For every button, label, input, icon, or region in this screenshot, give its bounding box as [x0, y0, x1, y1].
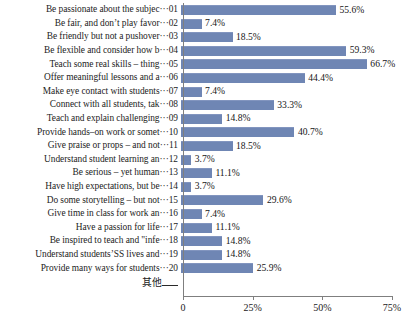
bar-value-label: 3.7% — [195, 153, 215, 165]
bar — [181, 114, 222, 124]
chart-row: Provide many ways for students···2025.9% — [0, 261, 418, 275]
x-axis-tick-label: 0 — [181, 302, 186, 314]
other-row-text: 其他 — [142, 277, 162, 288]
bar-track: 25.9% — [181, 261, 418, 275]
chart-row: Understand student learning an···123.7% — [0, 153, 418, 167]
bar-track: 55.6% — [181, 3, 418, 17]
category-label: Give time in class for work an···16 — [0, 208, 181, 219]
bar-value-label: 18.5% — [236, 31, 261, 43]
chart-row: Be flexible and consider how b···0459.3% — [0, 44, 418, 58]
bar-value-label: 25.9% — [257, 262, 282, 274]
chart-row: Give time in class for work an···167.4% — [0, 207, 418, 221]
bar-value-label: 14.8% — [226, 235, 251, 247]
category-label: Understand students’SS lives and···19 — [0, 249, 181, 260]
bar-value-label: 3.7% — [195, 180, 215, 192]
bar — [181, 46, 346, 56]
category-label: Connect with all students, tak···08 — [0, 99, 181, 110]
bar — [181, 32, 233, 42]
bar — [181, 59, 367, 69]
category-label: Be passionate about the subjec···01 — [0, 4, 181, 15]
category-label: Teach and explain challenging···09 — [0, 113, 181, 124]
chart-rows: Be passionate about the subjec···0155.6%… — [0, 3, 418, 289]
category-label: Be serious – yet human···13 — [0, 167, 181, 178]
bar — [181, 263, 253, 273]
x-axis-tick — [183, 296, 184, 300]
chart-row: Be inspired to teach and "infe···1814.8% — [0, 234, 418, 248]
bar — [181, 236, 222, 246]
bar-value-label: 55.6% — [339, 4, 364, 16]
category-label: Be friendly but not a pushover···03 — [0, 31, 181, 42]
bar-track: 18.5% — [181, 30, 418, 44]
bar-value-label: 59.3% — [350, 44, 375, 56]
bar — [181, 19, 202, 29]
x-axis-tick — [322, 296, 323, 300]
category-label: Provide hands–on work or somet···10 — [0, 127, 181, 138]
chart-row: Be friendly but not a pushover···0318.5% — [0, 30, 418, 44]
bar — [181, 209, 202, 219]
chart-row: Connect with all students, tak···0833.3% — [0, 98, 418, 112]
category-label: Be inspired to teach and "infe···18 — [0, 235, 181, 246]
x-axis-tick — [392, 296, 393, 300]
bar — [181, 141, 233, 151]
category-label: Be fair, and don’t play favor···02 — [0, 18, 181, 29]
horizontal-bar-chart: Be passionate about the subjec···0155.6%… — [0, 0, 418, 327]
category-label: Make eye contact with students···07 — [0, 86, 181, 97]
bar-value-label: 44.4% — [308, 72, 333, 84]
other-row-blank-underline — [162, 277, 178, 286]
bar — [181, 73, 305, 83]
bar-track: 59.3% — [181, 44, 418, 58]
bar — [181, 87, 202, 97]
bar — [181, 5, 336, 15]
chart-row: Teach some real skills – thing···0566.7% — [0, 57, 418, 71]
chart-row: Have a passion for life···1711.1% — [0, 221, 418, 235]
chart-row: Be passionate about the subjec···0155.6% — [0, 3, 418, 17]
bar-track: 7.4% — [181, 17, 418, 31]
bar-value-label: 11.1% — [215, 221, 239, 233]
chart-row: Provide hands–on work or somet···1040.7% — [0, 125, 418, 139]
bar-value-label: 18.5% — [236, 140, 261, 152]
chart-row: Be fair, and don’t play favor···027.4% — [0, 17, 418, 31]
bar-track: 29.6% — [181, 193, 418, 207]
chart-row: Have high expectations, but be···143.7% — [0, 180, 418, 194]
chart-row: Give praise or props – and not···1118.5% — [0, 139, 418, 153]
bar-value-label: 66.7% — [370, 58, 395, 70]
category-label: Give praise or props – and not···11 — [0, 140, 181, 151]
category-label: Do some storytelling – but not···15 — [0, 195, 181, 206]
bar-value-label: 7.4% — [205, 85, 225, 97]
bar-track: 3.7% — [181, 180, 418, 194]
bar — [181, 182, 191, 192]
x-axis-tick-label: 25% — [243, 302, 261, 314]
category-label: Teach some real skills – thing···05 — [0, 59, 181, 70]
category-label: Have high expectations, but be···14 — [0, 181, 181, 192]
bar-track: 33.3% — [181, 98, 418, 112]
chart-row: Teach and explain challenging···0914.8% — [0, 112, 418, 126]
bar-track: 11.1% — [181, 221, 418, 235]
bar-value-label: 14.8% — [226, 112, 251, 124]
bar-value-label: 7.4% — [205, 17, 225, 29]
bar — [181, 127, 294, 137]
bar-track: 14.8% — [181, 112, 418, 126]
category-label: Have a passion for life···17 — [0, 222, 181, 233]
bar-track: 11.1% — [181, 166, 418, 180]
bar-value-label: 7.4% — [205, 208, 225, 220]
chart-row: Offer meaningful lessons and a···0644.4% — [0, 71, 418, 85]
bar-track: 66.7% — [181, 57, 418, 71]
bar-value-label: 40.7% — [298, 126, 323, 138]
bar-value-label: 11.1% — [215, 167, 239, 179]
bar-track: 40.7% — [181, 125, 418, 139]
other-row: 其他 — [0, 275, 418, 289]
x-axis-line — [183, 296, 392, 297]
x-axis-tick-label: 75% — [383, 302, 401, 314]
bar-value-label: 29.6% — [267, 194, 292, 206]
bar — [181, 168, 212, 178]
bar — [181, 223, 212, 233]
bar — [181, 155, 191, 165]
category-label: Understand student learning an···12 — [0, 154, 181, 165]
bar — [181, 100, 274, 110]
bar — [181, 195, 263, 205]
bar-track: 7.4% — [181, 207, 418, 221]
bar-value-label: 33.3% — [277, 99, 302, 111]
chart-row: Be serious – yet human···1311.1% — [0, 166, 418, 180]
bar-track: 7.4% — [181, 85, 418, 99]
bar — [181, 250, 222, 260]
